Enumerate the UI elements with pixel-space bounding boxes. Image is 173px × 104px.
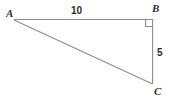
vertex-label-b: B <box>152 3 159 14</box>
triangle-figure <box>0 0 173 104</box>
side-length-label-ab: 10 <box>71 6 82 16</box>
geometry-diagram: A B C 10 5 <box>0 0 173 104</box>
vertex-label-c: C <box>154 86 161 97</box>
side-ac-hypotenuse-line <box>14 20 153 84</box>
right-angle-marker-icon <box>146 20 153 27</box>
side-length-label-bc: 5 <box>157 48 163 58</box>
vertex-label-a: A <box>6 8 13 19</box>
